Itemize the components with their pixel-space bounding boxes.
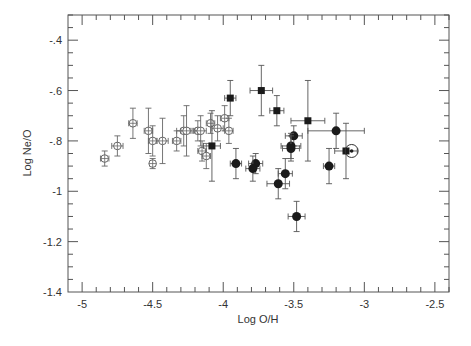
x-tick-label: -4.5 — [143, 298, 162, 310]
y-tick-label: -1 — [52, 185, 62, 197]
y-tick-label: -.8 — [49, 135, 62, 147]
filled-circle-marker — [281, 169, 290, 178]
y-tick-label: -1.4 — [43, 286, 62, 298]
scatter-chart: -5-4.5-4-3.5-3-2.5-.4-.6-.8-1-1.2-1.4 Lo… — [0, 0, 471, 346]
filled-square-marker — [273, 107, 280, 114]
series-filled-squares — [203, 65, 357, 181]
filled-circle-marker — [231, 159, 240, 168]
y-axis-label: Log Ne/O — [21, 129, 33, 177]
data-points — [100, 65, 364, 231]
y-tick-label: -1.2 — [43, 236, 62, 248]
filled-square-marker — [227, 95, 234, 102]
y-tick-label: -.6 — [49, 85, 62, 97]
filled-circle-marker — [332, 126, 341, 135]
filled-circle-marker — [286, 144, 295, 153]
filled-circle-marker — [248, 164, 257, 173]
series-open-circles — [100, 106, 233, 169]
x-tick-label: -5 — [77, 298, 87, 310]
sun-symbol-dot — [350, 149, 354, 153]
x-tick-label: -3 — [359, 298, 369, 310]
x-tick-label: -3.5 — [284, 298, 303, 310]
filled-circle-marker — [274, 179, 283, 188]
filled-circle-marker — [292, 212, 301, 221]
x-axis-label: Log O/H — [238, 313, 279, 325]
filled-square-marker — [258, 87, 265, 94]
x-tick-label: -2.5 — [425, 298, 444, 310]
x-tick-label: -4 — [218, 298, 228, 310]
filled-square-marker — [208, 142, 215, 149]
filled-square-marker — [304, 117, 311, 124]
series-filled-circles — [230, 113, 364, 231]
filled-circle-marker — [325, 162, 334, 171]
y-tick-label: -.4 — [49, 34, 62, 46]
